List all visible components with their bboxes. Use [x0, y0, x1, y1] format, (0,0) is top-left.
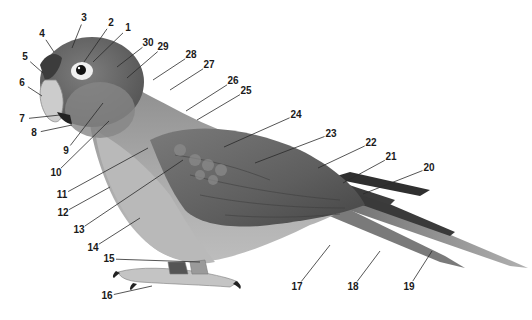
leader-line-26 [186, 85, 227, 111]
leader-line-18 [357, 251, 380, 281]
callout-label-2: 2 [108, 18, 114, 28]
parrot-anatomy-figure: 1234567891011121314151617181920212223242… [0, 0, 532, 320]
callout-label-13: 13 [73, 225, 84, 235]
leader-line-14 [99, 218, 140, 244]
callout-label-15: 15 [103, 254, 114, 264]
callout-label-10: 10 [50, 168, 61, 178]
callout-label-7: 7 [19, 114, 25, 124]
parrot-illustration [0, 0, 532, 320]
leader-line-8 [41, 125, 72, 132]
callout-label-21: 21 [385, 152, 396, 162]
callout-label-23: 23 [325, 129, 336, 139]
callout-label-4: 4 [39, 29, 45, 39]
callout-label-29: 29 [157, 42, 168, 52]
callout-label-20: 20 [423, 163, 434, 173]
leader-line-19 [413, 251, 432, 281]
leader-line-4 [46, 40, 54, 52]
callout-label-24: 24 [290, 110, 301, 120]
callout-label-8: 8 [31, 128, 37, 138]
callout-label-5: 5 [22, 52, 28, 62]
leader-line-28 [153, 59, 185, 80]
callout-label-3: 3 [81, 13, 87, 23]
callout-label-12: 12 [57, 208, 68, 218]
callout-label-6: 6 [19, 78, 25, 88]
leader-line-22 [318, 146, 365, 168]
leader-line-17 [301, 245, 330, 282]
callout-label-14: 14 [87, 243, 98, 253]
callout-label-28: 28 [185, 50, 196, 60]
callout-label-30: 30 [142, 38, 153, 48]
callout-label-26: 26 [227, 76, 238, 86]
leader-line-12 [69, 187, 110, 210]
feet [118, 260, 238, 287]
callout-label-9: 9 [63, 146, 69, 156]
eye [76, 65, 86, 75]
callout-label-25: 25 [240, 86, 251, 96]
callout-label-11: 11 [57, 190, 68, 200]
callout-label-19: 19 [403, 282, 414, 292]
callout-label-18: 18 [347, 282, 358, 292]
callout-label-27: 27 [203, 60, 214, 70]
callout-label-22: 22 [365, 138, 376, 148]
callout-label-1: 1 [125, 23, 131, 33]
callout-label-17: 17 [291, 282, 302, 292]
leader-line-25 [197, 95, 240, 120]
callout-label-16: 16 [101, 291, 112, 301]
leader-line-27 [170, 69, 203, 90]
